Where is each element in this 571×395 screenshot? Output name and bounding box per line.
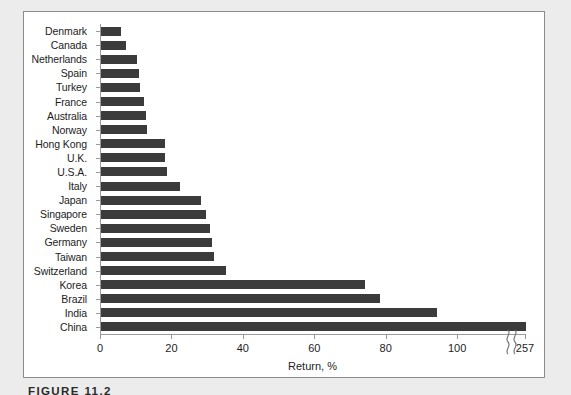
bar xyxy=(101,224,210,233)
y-axis-tick xyxy=(96,144,100,145)
category-label: Korea xyxy=(59,278,87,292)
category-label: Norway xyxy=(52,123,87,137)
x-axis-tick-max xyxy=(525,334,526,339)
bar xyxy=(101,294,380,303)
x-axis-tick-label: 20 xyxy=(165,342,177,354)
category-label: Australia xyxy=(47,109,87,123)
y-axis-tick xyxy=(96,130,100,131)
x-axis-tick xyxy=(386,334,387,339)
category-label: Japan xyxy=(59,193,87,207)
y-axis-tick xyxy=(96,172,100,173)
bar xyxy=(101,125,147,134)
x-axis-tick-label: 0 xyxy=(97,342,103,354)
category-label: U.S.A. xyxy=(57,165,87,179)
bar xyxy=(101,322,526,331)
category-label: India xyxy=(65,306,87,320)
category-axis-labels: DenmarkCanadaNetherlandsSpainTurkeyFranc… xyxy=(24,29,92,346)
bar xyxy=(101,153,165,162)
bar xyxy=(101,210,206,219)
y-axis-tick xyxy=(96,299,100,300)
category-label: Spain xyxy=(61,66,87,80)
category-label: Brazil xyxy=(61,292,87,306)
x-axis-tick-label-max: 257 xyxy=(516,342,534,354)
bar xyxy=(101,83,140,92)
category-label: France xyxy=(55,95,87,109)
x-axis-tick xyxy=(243,334,244,339)
y-axis-tick xyxy=(96,45,100,46)
y-axis-tick xyxy=(96,158,100,159)
bar xyxy=(101,196,201,205)
bar xyxy=(101,27,121,36)
x-axis-tick-label: 80 xyxy=(380,342,392,354)
bar xyxy=(101,111,146,120)
y-axis-tick xyxy=(96,327,100,328)
bar xyxy=(101,55,137,64)
y-axis-tick xyxy=(96,242,100,243)
y-axis-tick xyxy=(96,31,100,32)
plot-area: 020406080100257 xyxy=(100,24,525,334)
y-axis-tick xyxy=(96,200,100,201)
bar xyxy=(101,280,365,289)
bar xyxy=(101,308,437,317)
y-axis-tick xyxy=(96,271,100,272)
category-label: Switzerland xyxy=(34,264,87,278)
x-axis-title: Return, % xyxy=(100,360,525,372)
x-axis-tick xyxy=(314,334,315,339)
category-label: Canada xyxy=(51,38,87,52)
x-axis-tick xyxy=(100,334,101,339)
y-axis-tick xyxy=(96,116,100,117)
y-axis-tick xyxy=(96,228,100,229)
y-axis-tick xyxy=(96,102,100,103)
y-axis-tick xyxy=(96,285,100,286)
y-axis-tick xyxy=(96,214,100,215)
y-axis-tick xyxy=(96,59,100,60)
x-axis-tick xyxy=(171,334,172,339)
category-label: China xyxy=(60,320,87,334)
y-axis-tick xyxy=(96,313,100,314)
x-axis-tick-label: 60 xyxy=(308,342,320,354)
category-label: Sweden xyxy=(50,221,87,235)
category-label: Italy xyxy=(68,179,87,193)
bar xyxy=(101,167,167,176)
x-axis-line xyxy=(100,334,525,335)
y-axis-tick xyxy=(96,73,100,74)
bar xyxy=(101,97,144,106)
bar xyxy=(101,252,214,261)
bar xyxy=(101,182,180,191)
x-axis-tick xyxy=(457,334,458,339)
bar xyxy=(101,41,126,50)
category-label: Singapore xyxy=(40,207,87,221)
figure-panel: DenmarkCanadaNetherlandsSpainTurkeyFranc… xyxy=(23,11,545,378)
category-label: U.K. xyxy=(67,151,87,165)
y-axis-tick xyxy=(96,257,100,258)
category-label: Hong Kong xyxy=(35,137,87,151)
category-label: Taiwan xyxy=(55,250,87,264)
figure-caption: FIGURE 11.2 xyxy=(28,385,112,395)
category-label: Denmark xyxy=(45,24,87,38)
y-axis-tick xyxy=(96,87,100,88)
x-axis-tick-label: 40 xyxy=(237,342,249,354)
bar xyxy=(101,139,165,148)
bar xyxy=(101,238,212,247)
y-axis-tick xyxy=(96,186,100,187)
bar xyxy=(101,266,226,275)
category-label: Germany xyxy=(45,235,87,249)
category-label: Turkey xyxy=(56,80,87,94)
bar-chart: DenmarkCanadaNetherlandsSpainTurkeyFranc… xyxy=(24,12,546,379)
category-label: Netherlands xyxy=(31,52,87,66)
x-axis-tick-label: 100 xyxy=(448,342,466,354)
bar xyxy=(101,69,139,78)
